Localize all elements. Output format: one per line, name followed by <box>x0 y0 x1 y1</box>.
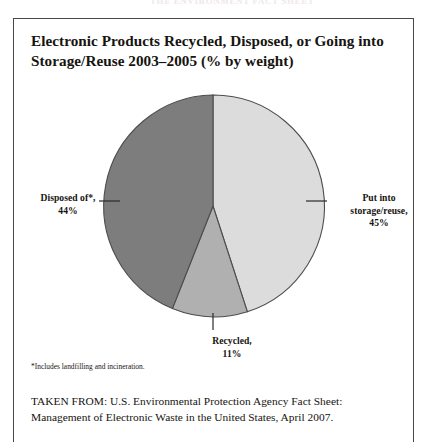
callout-storage-reuse: Put into storage/reuse, 45% <box>336 192 422 230</box>
figure-title-line-2: Storage/Reuse 2003–2005 (% by weight) <box>31 51 386 71</box>
figure-source: TAKEN FROM: U.S. Environmental Protectio… <box>31 393 399 425</box>
callout-storage-reuse-value: 45% <box>369 217 388 228</box>
page-bleed-text: THE ENVIRONMENT FACT SHEET <box>150 0 420 7</box>
figure-frame: Electronic Products Recycled, Disposed, … <box>13 18 414 442</box>
callout-storage-reuse-label-1: Put into <box>362 192 395 203</box>
figure-title: Electronic Products Recycled, Disposed, … <box>31 31 386 71</box>
callout-disposed-label: Disposed of*, <box>40 192 95 203</box>
figure-inner: Electronic Products Recycled, Disposed, … <box>14 19 413 442</box>
figure-source-line-2: Management of Electronic Waste in the Un… <box>31 409 399 425</box>
callout-recycled-label: Recycled, <box>212 335 252 346</box>
callout-recycled: Recycled, 11% <box>191 335 273 360</box>
callout-disposed: Disposed of*, 44% <box>27 192 109 217</box>
callout-recycled-value: 11% <box>223 348 242 359</box>
callout-disposed-value: 44% <box>58 205 77 216</box>
figure-source-line-1: TAKEN FROM: U.S. Environmental Protectio… <box>31 393 399 409</box>
callout-storage-reuse-label-2: storage/reuse, <box>350 205 407 216</box>
figure-footnote: *Includes landfilling and incineration. <box>31 362 145 372</box>
figure-title-line-1: Electronic Products Recycled, Disposed, … <box>31 32 384 49</box>
